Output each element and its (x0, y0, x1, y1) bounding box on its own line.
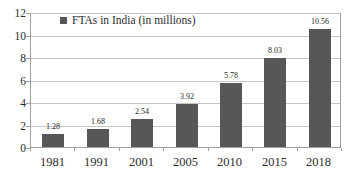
bar-1981 (42, 134, 64, 147)
x-tick-mark (341, 148, 342, 151)
y-axis-tick-label: 4 (0, 97, 26, 109)
bar-2015 (264, 58, 286, 147)
x-axis-tick-label: 1991 (74, 155, 119, 170)
y-axis-tick-label: 12 (0, 7, 26, 19)
y-tick-mark (26, 36, 30, 37)
gridline-y-10 (31, 36, 340, 37)
x-tick-mark (30, 148, 31, 151)
y-tick-mark (26, 81, 30, 82)
x-axis-tick-label: 2005 (163, 155, 208, 170)
plot-area: 1.281.682.543.925.788.0310.56 (30, 13, 341, 148)
y-axis-tick-label: 10 (0, 30, 26, 42)
gridline-y-6 (31, 81, 340, 82)
bar-2005 (176, 104, 198, 147)
bar-2010 (220, 83, 242, 147)
bar-1991 (87, 129, 109, 147)
legend: FTAs in India (in millions) (60, 14, 196, 26)
x-tick-mark (119, 148, 120, 151)
bar-2018 (309, 29, 331, 147)
legend-label: FTAs in India (in millions) (72, 14, 196, 26)
x-axis-line (31, 147, 340, 148)
y-tick-mark (26, 126, 30, 127)
x-axis-tick-label: 2018 (296, 155, 341, 170)
bar-chart: 1.281.682.543.925.788.0310.56 024681012 … (0, 0, 354, 175)
y-axis-tick-label: 8 (0, 52, 26, 64)
x-axis-tick-label: 2001 (119, 155, 164, 170)
bar-2001 (131, 119, 153, 147)
x-tick-mark (163, 148, 164, 151)
bar-value-label: 8.03 (253, 46, 297, 56)
x-axis-tick-label: 2010 (207, 155, 252, 170)
gridline-y-8 (31, 58, 340, 59)
x-axis-tick-label: 2015 (252, 155, 297, 170)
y-axis-tick-label: 2 (0, 120, 26, 132)
y-tick-mark (26, 58, 30, 59)
bar-value-label: 1.28 (31, 122, 75, 132)
y-tick-mark (26, 13, 30, 14)
x-axis-tick-label: 1981 (30, 155, 75, 170)
x-tick-mark (74, 148, 75, 151)
y-tick-mark (26, 103, 30, 104)
x-tick-mark (208, 148, 209, 151)
bar-value-label: 5.78 (209, 71, 253, 81)
x-tick-mark (252, 148, 253, 151)
y-axis-tick-label: 0 (0, 142, 26, 154)
bar-value-label: 2.54 (120, 107, 164, 117)
legend-square-marker-icon (60, 17, 67, 24)
x-tick-mark (297, 148, 298, 151)
bar-value-label: 10.56 (298, 17, 342, 27)
y-axis-tick-label: 6 (0, 75, 26, 87)
bar-value-label: 1.68 (76, 117, 120, 127)
bar-value-label: 3.92 (165, 92, 209, 102)
